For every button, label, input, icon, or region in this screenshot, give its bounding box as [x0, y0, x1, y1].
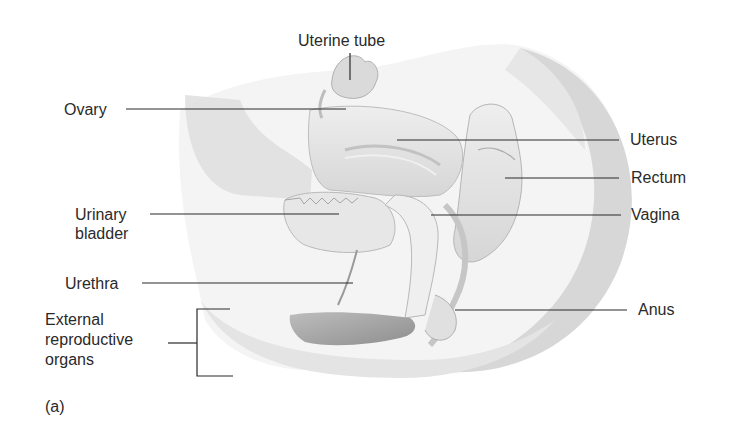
label-urethra: Urethra — [65, 274, 118, 293]
label-uterus: Uterus — [630, 130, 677, 149]
anatomy-figure: Uterine tube Ovary Uterus Rectum Vagina … — [0, 0, 738, 437]
panel-label: (a) — [45, 397, 65, 416]
label-ovary: Ovary — [64, 100, 107, 119]
label-vagina: Vagina — [631, 205, 680, 224]
label-external-reproductive-organs: External reproductive organs — [45, 310, 133, 370]
label-anus: Anus — [638, 300, 674, 319]
label-urinary-bladder: Urinary bladder — [75, 205, 128, 243]
label-uterine-tube: Uterine tube — [298, 31, 385, 50]
label-rectum: Rectum — [631, 168, 686, 187]
